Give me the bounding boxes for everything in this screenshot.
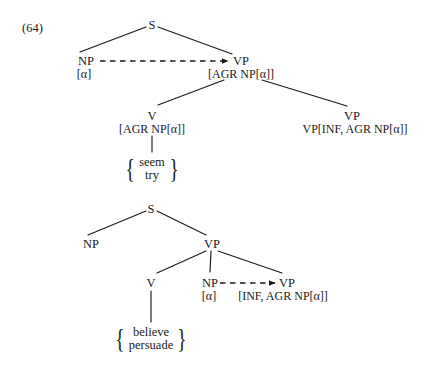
lexical-items-bottom: believe persuade	[126, 326, 175, 351]
feature-vp-embedded-bottom: [INF, AGR NP[α]]	[238, 290, 328, 303]
edge-s-np	[88, 211, 146, 235]
tree-edges	[0, 0, 434, 365]
figure-canvas: (64) S NP [α] VP [AGR NP[α]] V [AGR NP[α…	[0, 0, 434, 365]
feature-v-top: [AGR NP[α]]	[119, 123, 185, 136]
node-np-bottom: NP	[83, 238, 99, 251]
edge-vp-vpinf	[262, 80, 347, 106]
node-s-top: S	[148, 19, 155, 32]
lexical-item: try	[145, 169, 159, 182]
node-s-bottom: S	[147, 203, 154, 216]
example-number: (64)	[22, 22, 43, 35]
edge-s-vp	[157, 211, 206, 235]
lexical-item: seem	[139, 156, 165, 169]
brace-right-bottom: }	[178, 328, 187, 350]
edge-s-vp	[158, 27, 232, 54]
lexical-items-top: seem try	[137, 156, 168, 181]
feature-np-object-bottom: [α]	[202, 290, 216, 303]
edge-vp-v	[158, 80, 224, 105]
lexical-item: persuade	[129, 339, 173, 352]
feature-vp-top: [AGR NP[α]]	[208, 68, 274, 81]
lexical-set-bottom: { believe persuade }	[113, 326, 188, 351]
edge-vp-vpinf	[218, 251, 282, 273]
edge-vp-v	[157, 251, 206, 273]
node-vp-bottom: VP	[204, 238, 220, 251]
edge-s-np	[80, 27, 146, 52]
brace-left-bottom: {	[115, 328, 124, 350]
feature-vp-embedded-top: VP[INF, AGR NP[α]]	[303, 123, 408, 136]
lexical-set-top: { seem try }	[124, 156, 181, 181]
node-v-bottom: V	[146, 277, 155, 290]
tree-bottom-edges	[88, 211, 282, 322]
brace-right-top: }	[169, 158, 178, 180]
lexical-item: believe	[133, 326, 169, 339]
edge-vp-np	[210, 251, 211, 272]
brace-left-top: {	[126, 158, 135, 180]
feature-np-top: [α]	[77, 68, 91, 81]
